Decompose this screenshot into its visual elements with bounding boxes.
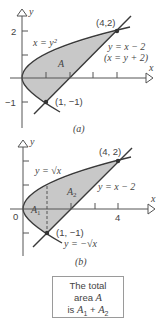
curve-label-sqrt: y = √x [34, 165, 62, 176]
total-area-note: The total area A is A1 + A2 [52, 276, 124, 318]
x-axis-label: x [150, 193, 156, 204]
caption-b: (b) [75, 256, 87, 268]
point-4-2 [116, 159, 120, 163]
point-label-1-neg1: (1, −1) [56, 227, 84, 238]
panel-b-graph: y x 0 4 y = √x A1 A2 y = x − 2 (4, 2) (1… [0, 0, 167, 270]
note-line-1: The total [53, 280, 123, 292]
y-axis-arrow-icon [18, 140, 28, 147]
y-axis-label: y [29, 136, 35, 147]
x-tick-label-4: 4 [115, 212, 120, 223]
point-1-neg1 [45, 231, 49, 235]
note-line-2: area A [53, 292, 123, 304]
point-label-4-2: (4, 2) [99, 146, 121, 157]
x-axis-arrow-icon [148, 204, 155, 214]
note-line-3: is A1 + A2 [53, 304, 123, 320]
curve-label-neg-sqrt: y = −√x [63, 238, 97, 249]
x-tick-label-0: 0 [13, 211, 18, 222]
line-label: y = x − 2 [97, 181, 135, 192]
